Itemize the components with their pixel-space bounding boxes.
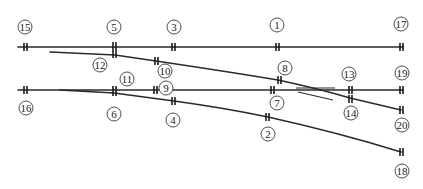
svg-text:19: 19 <box>397 67 409 79</box>
svg-text:17: 17 <box>396 18 408 30</box>
label-19: 19 <box>395 66 409 80</box>
label-2: 2 <box>261 127 275 141</box>
label-1: 1 <box>270 18 284 32</box>
svg-text:13: 13 <box>344 68 356 80</box>
svg-text:7: 7 <box>274 97 280 109</box>
label-11: 11 <box>120 72 134 86</box>
label-16: 16 <box>19 101 33 115</box>
label-3: 3 <box>167 20 181 34</box>
label-8: 8 <box>278 61 292 75</box>
svg-text:2: 2 <box>265 128 271 140</box>
svg-text:6: 6 <box>111 108 117 120</box>
svg-text:4: 4 <box>170 114 176 126</box>
svg-text:9: 9 <box>163 82 169 94</box>
label-20: 20 <box>395 118 409 132</box>
label-9: 9 <box>159 81 173 95</box>
svg-text:16: 16 <box>21 102 33 114</box>
track-crossover-b <box>298 92 333 100</box>
label-18: 18 <box>395 164 409 178</box>
svg-text:11: 11 <box>122 73 133 85</box>
label-4: 4 <box>166 113 180 127</box>
label-14: 14 <box>344 106 358 120</box>
label-7: 7 <box>270 96 284 110</box>
svg-text:14: 14 <box>346 107 358 119</box>
svg-text:15: 15 <box>20 21 32 33</box>
label-5: 5 <box>107 20 121 34</box>
label-17: 17 <box>394 17 408 31</box>
track-layout-diagram: 15 5 3 1 17 12 10 8 13 19 11 9 16 6 4 7 … <box>0 0 423 189</box>
label-15: 15 <box>18 20 32 34</box>
track-diverging-lower <box>60 90 401 152</box>
insulated-joints <box>24 42 403 156</box>
label-13: 13 <box>342 67 356 81</box>
joint-14 <box>349 95 352 103</box>
label-6: 6 <box>107 107 121 121</box>
svg-text:8: 8 <box>282 62 288 74</box>
svg-text:5: 5 <box>111 21 117 33</box>
label-10: 10 <box>158 64 172 78</box>
svg-text:18: 18 <box>397 165 409 177</box>
svg-text:1: 1 <box>274 19 280 31</box>
svg-text:12: 12 <box>95 59 106 71</box>
svg-text:20: 20 <box>397 119 409 131</box>
svg-text:3: 3 <box>171 21 177 33</box>
label-12: 12 <box>93 58 107 72</box>
joint-6 <box>113 86 116 96</box>
svg-text:10: 10 <box>160 65 172 77</box>
